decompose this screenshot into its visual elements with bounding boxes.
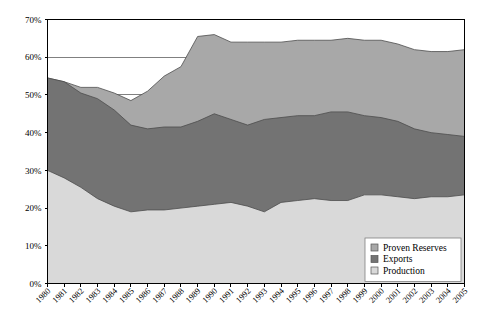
x-tick-label-2005: 2005 xyxy=(450,286,469,305)
x-tick-label-1991: 1991 xyxy=(217,286,236,305)
x-tick-label-1994: 1994 xyxy=(267,285,287,305)
y-tick-label-70: 70% xyxy=(25,15,42,25)
x-tick-label-1980: 1980 xyxy=(33,286,52,305)
y-tick-label-40: 40% xyxy=(25,128,42,138)
x-tick-label-1997: 1997 xyxy=(317,286,336,305)
x-tick-label-2000: 2000 xyxy=(367,286,386,305)
y-tick-label-30: 30% xyxy=(25,166,42,176)
x-tick-label-1981: 1981 xyxy=(50,286,69,305)
legend[interactable]: Proven ReservesExportsProduction xyxy=(365,238,461,282)
legend-swatch-proven-reserves xyxy=(371,244,378,251)
legend-swatch-production xyxy=(371,267,378,274)
x-tick-label-1996: 1996 xyxy=(300,286,319,305)
x-tick-label-1982: 1982 xyxy=(67,286,86,305)
legend-label-exports: Exports xyxy=(383,254,413,264)
x-tick-label-1987: 1987 xyxy=(150,286,169,305)
y-tick-label-10: 10% xyxy=(25,241,42,251)
y-tick-label-60: 60% xyxy=(25,52,42,62)
y-tick-label-50: 50% xyxy=(25,90,42,100)
chart-canvas: 0%10%20%30%40%50%60%70% 1980198119821983… xyxy=(0,0,484,329)
x-tick-label-1988: 1988 xyxy=(167,286,186,305)
legend-label-proven-reserves: Proven Reserves xyxy=(383,243,447,253)
x-tick-label-1993: 1993 xyxy=(250,286,269,305)
x-tick-label-1989: 1989 xyxy=(183,286,202,305)
legend-item-exports[interactable]: Exports xyxy=(371,254,413,264)
legend-swatch-exports xyxy=(371,256,378,263)
x-tick-label-1999: 1999 xyxy=(350,286,369,305)
x-tick-label-1984: 1984 xyxy=(100,285,120,305)
x-tick-label-1998: 1998 xyxy=(334,286,353,305)
x-tick-label-1985: 1985 xyxy=(117,286,136,305)
x-axis-tick-labels: 1980198119821983198419851986198719881989… xyxy=(33,284,469,305)
legend-item-proven-reserves[interactable]: Proven Reserves xyxy=(371,243,447,253)
y-tick-label-0: 0% xyxy=(30,279,43,289)
x-tick-label-2001: 2001 xyxy=(384,286,403,305)
x-tick-label-1995: 1995 xyxy=(284,286,303,305)
x-tick-label-2003: 2003 xyxy=(417,286,436,305)
y-tick-label-20: 20% xyxy=(25,203,42,213)
x-tick-label-1990: 1990 xyxy=(200,286,219,305)
area-chart: 0%10%20%30%40%50%60%70% 1980198119821983… xyxy=(0,0,484,329)
x-tick-label-1986: 1986 xyxy=(133,286,152,305)
x-tick-label-1983: 1983 xyxy=(83,286,102,305)
legend-label-production: Production xyxy=(383,266,425,276)
y-axis-tick-labels: 0%10%20%30%40%50%60%70% xyxy=(25,15,48,289)
x-tick-label-2002: 2002 xyxy=(400,286,419,305)
x-tick-label-1992: 1992 xyxy=(233,286,252,305)
x-tick-label-2004: 2004 xyxy=(434,285,454,305)
